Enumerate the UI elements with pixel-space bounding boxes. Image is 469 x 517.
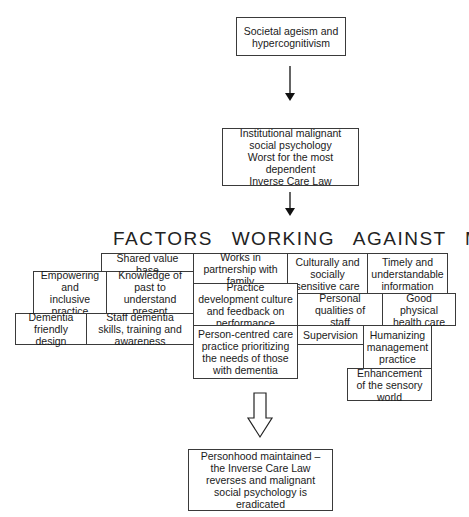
societal-ageism-box: Societal ageism and hypercognitivism xyxy=(236,17,346,56)
factor-practice-development: Practice development culture and feedbac… xyxy=(193,283,298,326)
inst-line-3: Worst for the most xyxy=(248,151,334,163)
inst-line-1: Institutional malignant xyxy=(240,127,342,139)
institutional-malignant-box: Institutional malignant social psycholog… xyxy=(222,128,359,186)
factor-knowledge-of-past: Knowledge of past to understand present xyxy=(106,271,194,314)
factor-supervision: Supervision xyxy=(297,325,364,345)
factor-works-in-partnership: Works in partnership with family xyxy=(193,253,288,284)
arrow-down-icon xyxy=(285,93,295,101)
factors-heading: FACTORS WORKING AGAINST MSP xyxy=(113,228,463,250)
factor-culturally-sensitive: Culturally and socially sensitive care xyxy=(287,253,368,294)
factor-staff-skills: Staff dementia skills, training and awar… xyxy=(86,313,194,345)
inst-line-5: Inverse Care Law xyxy=(249,175,331,187)
outcome-box: Personhood maintained – the Inverse Care… xyxy=(188,449,333,511)
factor-enhancement: Enhancement of the sensory world xyxy=(347,368,432,401)
factor-empowering: Empowering and inclusive practice xyxy=(33,271,107,314)
inst-line-4: dependent xyxy=(266,163,316,175)
factor-humanizing: Humanizing management practice xyxy=(363,325,432,369)
factor-personal-qualities: Personal qualities of staff xyxy=(297,293,383,326)
factor-dementia-friendly: Dementia friendly design xyxy=(15,313,87,345)
factor-timely-information: Timely and understandable information xyxy=(367,253,448,294)
arrow-down-icon xyxy=(285,208,295,216)
hollow-arrow-down-icon xyxy=(248,393,272,437)
factor-person-centred: Person-centred care practice prioritizin… xyxy=(193,325,298,379)
factor-good-physical: Good physical health care xyxy=(382,293,456,326)
inst-line-2: social psychology xyxy=(249,139,331,151)
